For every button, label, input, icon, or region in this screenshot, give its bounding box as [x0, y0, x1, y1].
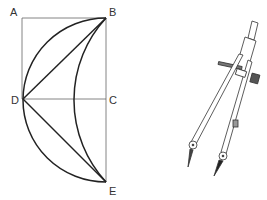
compass-icon — [188, 21, 260, 176]
compass-pencil-lead — [214, 160, 223, 176]
point-label-d: D — [11, 94, 19, 106]
compass-latch — [233, 120, 238, 127]
segment-de — [23, 99, 106, 182]
construction-lines — [22, 18, 106, 182]
point-label-b: B — [109, 6, 116, 18]
main-lines — [23, 18, 106, 182]
compass-left-joint-dot — [192, 144, 194, 146]
compass-needle — [188, 149, 193, 167]
compass-handle — [248, 21, 258, 40]
point-label-e: E — [109, 185, 116, 197]
compass-left-leg — [191, 54, 243, 144]
compass-right-joint-dot — [222, 155, 224, 157]
segment-db — [23, 18, 106, 99]
compass-knob — [250, 73, 260, 84]
diagram: A B C D E — [0, 0, 267, 200]
outer-arc — [23, 18, 106, 182]
inner-arc — [74, 18, 106, 182]
point-label-c: C — [109, 94, 117, 106]
point-label-a: A — [10, 6, 18, 18]
